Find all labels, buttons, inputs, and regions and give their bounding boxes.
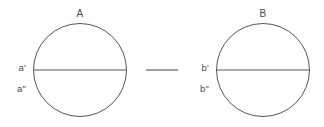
circle-b-lower-label: b" <box>200 84 209 94</box>
circle-a-upper-label: a' <box>19 63 27 73</box>
circle-a-lower-label: a" <box>17 84 26 94</box>
circle-a-title: A <box>77 9 84 19</box>
circle-b-upper-label: b' <box>202 63 210 73</box>
circle-b-title: B <box>260 9 267 19</box>
diagram-canvas <box>0 0 324 127</box>
circle-diagram-figure: A a' a" B b' b" <box>0 0 324 127</box>
